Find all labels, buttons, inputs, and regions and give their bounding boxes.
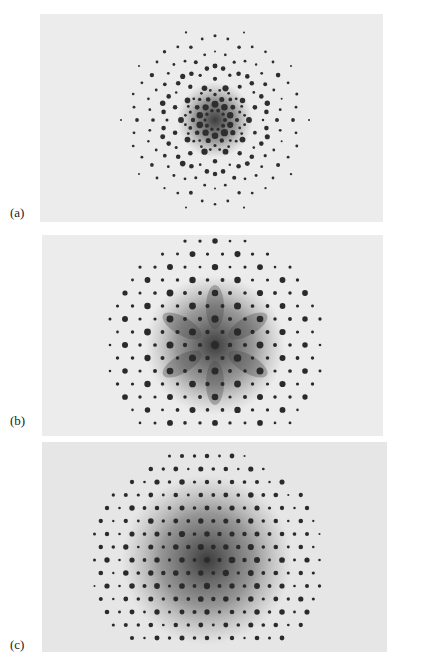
diffraction-pattern-c [42, 442, 387, 652]
diffraction-pattern-a [40, 14, 383, 222]
diffraction-panel-c [42, 442, 387, 652]
diffraction-panel-b [42, 235, 383, 436]
panel-label-c: (c) [10, 637, 24, 653]
diffraction-panel-a [40, 14, 383, 222]
panel-label-b: (b) [10, 413, 25, 429]
diffraction-pattern-b [42, 235, 383, 436]
panel-label-a: (a) [10, 205, 24, 221]
